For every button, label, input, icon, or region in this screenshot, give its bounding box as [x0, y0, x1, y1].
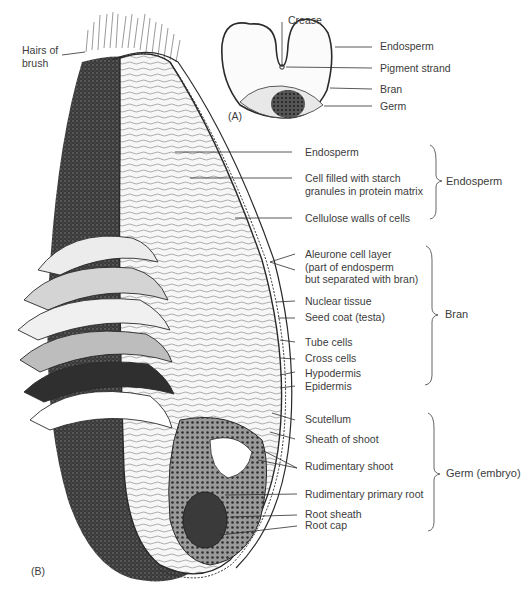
- panel-b-tag: (B): [31, 565, 45, 578]
- label-rudimentary-shoot: Rudimentary shoot: [305, 460, 393, 473]
- group-germ-title: Germ (embryo): [446, 467, 521, 479]
- label-tube-cells: Tube cells: [305, 336, 352, 349]
- label-epidermis: Epidermis: [305, 380, 352, 393]
- label-cross-cells: Cross cells: [305, 352, 356, 365]
- label-a-bran: Bran: [380, 83, 402, 96]
- label-sheath-of-shoot: Sheath of shoot: [305, 433, 379, 446]
- label-cellulose-walls: Cellulose walls of cells: [305, 212, 410, 225]
- label-a-endosperm: Endosperm: [380, 40, 434, 53]
- label-hairs-of-brush: Hairs of brush: [22, 44, 58, 69]
- wheat-kernel-illustration: [0, 0, 530, 591]
- label-aleurone: Aleurone cell layer (part of endosperm b…: [305, 248, 418, 286]
- label-root-cap: Root cap: [305, 519, 347, 532]
- cross-section-a: [222, 19, 332, 118]
- group-bran-title: Bran: [445, 308, 468, 320]
- label-crease: Crease: [288, 14, 322, 27]
- label-starch-cell: Cell filled with starch granules in prot…: [305, 172, 423, 197]
- label-rudimentary-primary-root: Rudimentary primary root: [305, 488, 423, 501]
- label-a-germ: Germ: [380, 100, 406, 113]
- label-seed-coat: Seed coat (testa): [305, 311, 385, 324]
- label-hypodermis: Hypodermis: [305, 367, 361, 380]
- group-braces: [425, 145, 442, 531]
- label-endosperm: Endosperm: [305, 146, 359, 159]
- group-endosperm-title: Endosperm: [446, 175, 502, 187]
- label-pigment-strand: Pigment strand: [380, 62, 451, 75]
- panel-a-tag: (A): [228, 110, 242, 123]
- label-scutellum: Scutellum: [305, 413, 351, 426]
- label-nuclear-tissue: Nuclear tissue: [305, 295, 372, 308]
